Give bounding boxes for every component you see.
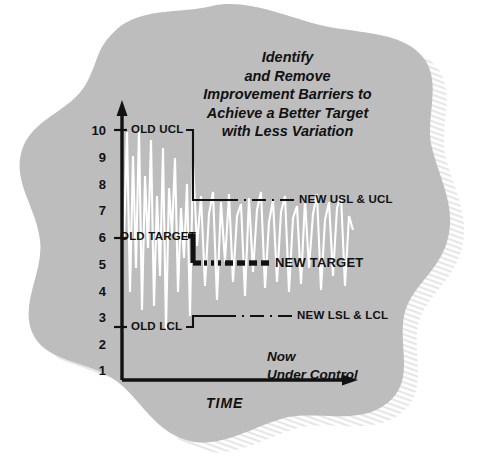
y-tick-4: 4 <box>86 285 106 298</box>
footer-line-2: Under Control <box>267 366 358 384</box>
new-target-label: NEW TARGET <box>275 256 363 269</box>
x-axis-label: TIME <box>206 396 243 410</box>
headline-line-3: Improvement Barriers to <box>190 85 385 104</box>
headline-line-4: Achieve a Better Target <box>190 104 385 123</box>
old-target-label: OLD TARGET <box>120 231 196 243</box>
headline-line-1: Identify <box>190 48 385 67</box>
y-tick-7: 7 <box>86 204 106 217</box>
y-tick-6: 6 <box>86 231 106 244</box>
headline-line-2: and Remove <box>190 67 385 86</box>
old-lcl-label: OLD LCL <box>131 321 182 333</box>
spc-control-chart-figure: 10 9 8 7 6 5 4 3 2 1 OLD UCL OLD TARGET … <box>0 0 477 473</box>
new-usl-ucl-label: NEW USL & UCL <box>299 194 393 206</box>
footer-line-1: Now <box>267 348 358 366</box>
now-under-control-note: Now Under Control <box>267 348 358 383</box>
y-tick-10: 10 <box>86 124 106 137</box>
old-ucl-label: OLD UCL <box>131 124 184 136</box>
headline-line-5: with Less Variation <box>190 122 385 141</box>
y-tick-8: 8 <box>86 178 106 191</box>
figure-headline: Identify and Remove Improvement Barriers… <box>190 48 385 141</box>
y-tick-2: 2 <box>86 338 106 351</box>
new-lsl-lcl-label: NEW LSL & LCL <box>297 310 388 322</box>
y-tick-9: 9 <box>86 151 106 164</box>
y-tick-3: 3 <box>86 311 106 324</box>
y-tick-5: 5 <box>86 258 106 271</box>
y-tick-1: 1 <box>86 364 106 377</box>
